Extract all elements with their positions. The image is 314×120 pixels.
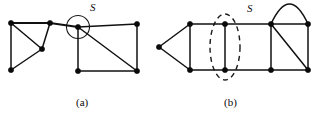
- a-v7: [134, 21, 139, 26]
- b-v8: [305, 21, 310, 26]
- panel-b-cut-label: S: [247, 2, 253, 14]
- graph-figure: S(a)S(b): [0, 0, 314, 120]
- b-e2: [159, 47, 190, 70]
- a-e3: [11, 49, 42, 70]
- b-e1: [159, 24, 190, 47]
- a-v2: [8, 67, 13, 72]
- b-v2: [187, 21, 192, 26]
- panel-b: S(b): [156, 2, 310, 109]
- graph-figure-canvas: S(a)S(b): [0, 0, 314, 120]
- b-e13: [271, 24, 308, 70]
- b-v3: [187, 67, 192, 72]
- a-v8: [134, 68, 139, 73]
- a-e6: [50, 23, 78, 27]
- a-v6: [75, 68, 80, 73]
- a-v3: [39, 46, 44, 51]
- panel-a-cut-label: S: [90, 1, 96, 13]
- panel-a-caption: (a): [76, 96, 89, 109]
- a-e2: [11, 23, 42, 49]
- a-v5: [75, 24, 80, 29]
- panel-b-caption: (b): [224, 96, 237, 109]
- panel-a: S(a): [8, 1, 139, 109]
- a-v1: [8, 20, 13, 25]
- b-v4: [222, 21, 227, 26]
- b-v6: [268, 21, 273, 26]
- b-v9: [305, 67, 310, 72]
- b-v5: [222, 67, 227, 72]
- a-v4: [47, 20, 52, 25]
- b-v7: [268, 67, 273, 72]
- b-v1: [156, 44, 161, 49]
- a-e7: [78, 24, 137, 27]
- a-e9: [78, 27, 137, 71]
- a-e4: [42, 23, 50, 49]
- b-arc-top: [271, 4, 308, 24]
